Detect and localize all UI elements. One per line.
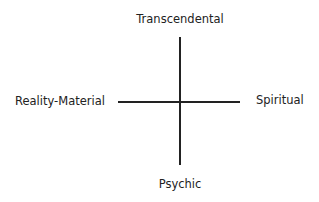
label-top: Transcendental <box>0 12 319 26</box>
label-bottom: Psychic <box>0 177 319 191</box>
horizontal-axis <box>118 101 240 103</box>
label-right: Spiritual <box>256 93 304 107</box>
label-left: Reality-Material <box>15 94 105 108</box>
